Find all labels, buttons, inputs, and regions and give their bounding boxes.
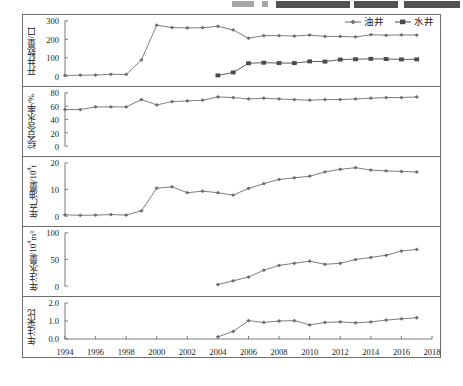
diamond-marker	[353, 166, 357, 170]
panel-stack: 开井数量/口0100200300油井水井综合含水率/%020406080年产油量…	[23, 15, 440, 357]
diamond-marker	[415, 95, 419, 99]
header-text-fragment	[354, 1, 398, 8]
x-tick-label: 2018	[424, 348, 441, 357]
x-tick-label: 1998	[118, 348, 135, 357]
diamond-marker	[139, 98, 143, 102]
x-tick-label: 2010	[301, 348, 318, 357]
diamond-marker	[384, 169, 388, 173]
diamond-marker	[109, 105, 113, 109]
y-tick-label: 50	[51, 256, 60, 265]
y-axis-label-unit: m³	[28, 231, 38, 241]
y-tick-labels: 020406080	[37, 87, 61, 156]
diamond-marker	[155, 186, 159, 190]
diamond-marker	[170, 100, 174, 104]
y-tick-label: 40	[51, 116, 60, 125]
diamond-marker	[415, 248, 419, 252]
diamond-marker	[323, 98, 327, 102]
diamond-marker	[338, 320, 342, 324]
diamond-marker	[415, 33, 419, 37]
diamond-marker	[246, 187, 250, 191]
chart-panel: 年产油量/104t01020	[23, 157, 440, 227]
diamond-marker	[277, 97, 281, 101]
diamond-marker	[216, 283, 220, 287]
y-tick-label: 0	[55, 143, 59, 152]
diamond-marker	[384, 96, 388, 100]
diamond-marker	[384, 33, 388, 37]
diamond-marker	[63, 74, 67, 78]
diamond-marker	[262, 34, 266, 38]
diamond-marker	[93, 73, 97, 77]
y-tick-label: 10	[51, 186, 60, 195]
diamond-marker	[292, 319, 296, 323]
diamond-marker	[369, 33, 373, 37]
y-tick-labels: 050100	[37, 227, 61, 296]
y-tick-label: 0	[55, 213, 59, 222]
diamond-marker	[185, 26, 189, 30]
diamond-marker	[216, 335, 220, 339]
plot-area	[63, 87, 436, 156]
header-text-fragment	[276, 1, 350, 8]
diamond-marker	[63, 108, 67, 112]
y-tick-labels: 0100200300	[37, 15, 61, 86]
diamond-marker	[262, 321, 266, 325]
y-axis-label-main: 开井数量/口	[27, 27, 36, 75]
legend-label: 水井	[414, 18, 434, 28]
header-text-fragment	[404, 1, 460, 8]
diamond-marker	[216, 24, 220, 28]
x-tick-label: 2004	[209, 348, 226, 357]
diamond-marker	[307, 259, 311, 263]
chart-legend: 油井水井	[344, 18, 434, 28]
square-marker	[292, 61, 297, 65]
square-marker	[231, 70, 236, 74]
diamond-marker	[109, 72, 113, 76]
y-tick-label: 20	[51, 159, 60, 168]
x-tick-label: 1994	[57, 348, 74, 357]
diamond-marker	[415, 170, 419, 174]
plot-area	[63, 157, 436, 226]
diamond-marker	[399, 317, 403, 321]
diamond-marker	[344, 18, 362, 28]
diamond-marker	[353, 97, 357, 101]
diamond-marker	[246, 97, 250, 101]
diamond-marker	[307, 174, 311, 178]
diamond-marker	[292, 176, 296, 180]
y-axis-label-main: 综合含水率/%	[27, 94, 36, 149]
square-marker	[414, 57, 419, 61]
diamond-marker	[399, 170, 403, 174]
y-tick-label: 0	[55, 283, 59, 292]
legend-item[interactable]: 水井	[394, 18, 434, 28]
diamond-marker	[185, 99, 189, 103]
y-tick-label: 300	[46, 17, 59, 26]
y-tick-label: 0	[55, 73, 59, 82]
x-tick-label: 2008	[271, 348, 288, 357]
diamond-marker	[369, 96, 373, 100]
diamond-marker	[155, 103, 159, 107]
diamond-marker	[93, 105, 97, 109]
plot-area	[63, 227, 436, 296]
square-marker	[246, 61, 251, 65]
diamond-marker	[277, 178, 281, 182]
series-line	[65, 97, 417, 110]
diamond-marker	[200, 26, 204, 30]
y-tick-label: 80	[51, 89, 60, 98]
square-marker	[368, 57, 373, 61]
y-tick-label: 20	[51, 129, 60, 138]
diamond-marker	[307, 323, 311, 327]
diamond-marker	[124, 213, 128, 217]
chart-panel: 开井数量/口0100200300油井水井	[23, 15, 440, 87]
diamond-marker	[292, 34, 296, 38]
y-tick-label: 2.0	[48, 299, 59, 308]
header-text-fragment	[232, 1, 254, 7]
chart-panel: 年注水量/104m³050100	[23, 227, 440, 297]
diamond-marker	[338, 98, 342, 102]
diamond-marker	[369, 168, 373, 172]
diamond-marker	[307, 98, 311, 102]
legend-item[interactable]: 油井	[344, 18, 384, 28]
series-line	[65, 168, 417, 216]
figure-frame: 开井数量/口0100200300油井水井综合含水率/%020406080年产油量…	[22, 14, 441, 358]
square-marker	[323, 60, 328, 64]
diamond-marker	[353, 321, 357, 325]
diamond-marker	[292, 98, 296, 102]
y-tick-label: 100	[46, 54, 59, 63]
square-marker	[277, 61, 282, 65]
